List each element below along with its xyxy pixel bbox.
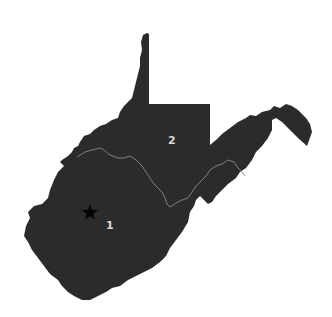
district-map: 1 2 <box>0 0 332 317</box>
state-outline <box>24 33 312 300</box>
district-label-1: 1 <box>106 220 114 231</box>
map-canvas <box>0 0 332 317</box>
district-label-2: 2 <box>168 135 176 146</box>
